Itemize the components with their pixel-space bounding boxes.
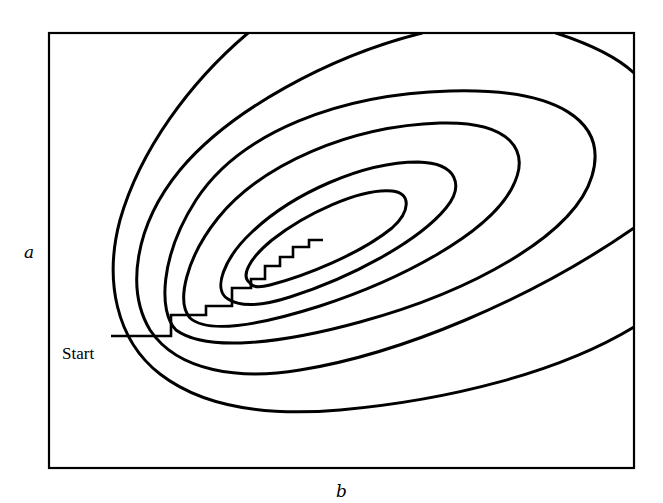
corner-contour: [556, 33, 634, 73]
contour-lines: [113, 33, 634, 412]
contour-diagram: a b Start: [0, 0, 663, 503]
contour-6: [113, 33, 634, 412]
x-axis-label: b: [336, 481, 347, 501]
plot-frame: [49, 33, 634, 468]
start-label: Start: [62, 344, 94, 363]
contour-3: [184, 123, 519, 326]
innermost-contour: [246, 191, 406, 287]
contour-5: [137, 33, 634, 374]
y-axis-label: a: [24, 242, 34, 262]
coordinate-descent-path: [111, 240, 323, 336]
